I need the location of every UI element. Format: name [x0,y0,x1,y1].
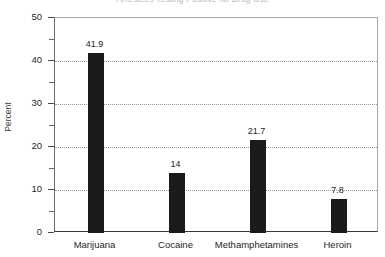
y-axis-minor-tick [49,82,54,83]
bar-value-label: 41.9 [65,39,125,49]
y-axis-minor-tick [49,168,54,169]
bar[interactable] [88,53,104,233]
y-axis-label: 10 [0,183,42,194]
chart-title: Arrestees Testing Positive for Drug Use [0,0,385,4]
y-axis-label: 50 [0,11,42,22]
y-axis-label: 30 [0,97,42,108]
y-axis-tick [48,189,54,190]
bar[interactable] [250,140,266,233]
y-axis-label: 40 [0,54,42,65]
bar-chart: Arrestees Testing Positive for Drug Use … [0,0,385,257]
plot-area [54,17,378,232]
y-axis-title: Percent [3,87,13,147]
y-axis-label: 0 [0,226,42,237]
y-axis-tick [48,232,54,233]
y-axis-tick [48,146,54,147]
y-axis-tick [48,60,54,61]
y-axis-minor-tick [49,39,54,40]
bar-value-label: 14 [146,159,206,169]
y-axis-tick [48,17,54,18]
x-axis-label: Heroin [273,239,385,250]
bar-value-label: 7.8 [308,185,368,195]
bar-value-label: 21.7 [227,126,287,136]
bar[interactable] [169,173,185,233]
y-axis-tick [48,103,54,104]
y-axis-label: 20 [0,140,42,151]
bar[interactable] [331,199,347,233]
y-axis-minor-tick [49,125,54,126]
y-axis-minor-tick [49,211,54,212]
